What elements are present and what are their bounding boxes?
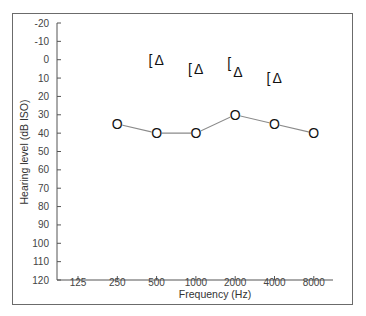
- y-tick-label: 80: [38, 201, 50, 212]
- x-tick-label: 2000: [224, 277, 247, 288]
- y-tick-labels: -20-100102030405060708090100110120: [32, 18, 49, 286]
- y-tick-label: 50: [38, 146, 50, 157]
- x-tick-label: 500: [148, 277, 165, 288]
- y-tick-label: -10: [35, 36, 50, 47]
- bone-conduction-marker: [Δ: [227, 55, 242, 80]
- series-line: [117, 115, 313, 133]
- y-tick-label: 100: [32, 238, 49, 249]
- x-tick-labels: 1252505001000200040008000: [70, 277, 326, 288]
- y-axis-title: Hearing level (dB ISO): [18, 99, 30, 204]
- y-tick-label: 30: [38, 109, 50, 120]
- y-tick-label: 90: [38, 219, 50, 230]
- triangle-symbol: Δ: [194, 61, 203, 77]
- y-tick-label: 10: [38, 73, 50, 84]
- bracket-symbol: [: [227, 55, 231, 71]
- triangle-symbol: Δ: [233, 64, 242, 80]
- triangle-symbol: Δ: [155, 52, 164, 68]
- bracket-symbol: [: [149, 52, 153, 68]
- y-tick-label: 110: [33, 256, 49, 267]
- x-axis-title: Frequency (Hz): [179, 288, 251, 300]
- triangle-symbol: Δ: [273, 70, 282, 86]
- audiogram-chart: -20-100102030405060708090100110120 12525…: [0, 0, 366, 316]
- air-conduction-marker: O: [190, 125, 201, 141]
- y-tick-label: 70: [38, 183, 50, 194]
- x-tick-label: 250: [109, 277, 126, 288]
- air-conduction-marker: O: [151, 125, 162, 141]
- x-tick-label: 1000: [185, 277, 208, 288]
- y-tick-label: 120: [32, 275, 49, 286]
- air-conduction-marker: O: [112, 116, 123, 132]
- bone-conduction-marker: [Δ: [267, 70, 282, 86]
- data-series: OOOOOO[Δ[Δ[Δ[Δ: [112, 52, 319, 141]
- x-tick-label: 4000: [263, 277, 286, 288]
- air-conduction-marker: O: [269, 116, 280, 132]
- y-tick-label: 60: [38, 164, 50, 175]
- bone-conduction-marker: [Δ: [188, 61, 203, 77]
- x-tick-label: 125: [70, 277, 87, 288]
- bone-conduction-marker: [Δ: [149, 52, 164, 68]
- y-tick-label: -20: [35, 18, 50, 29]
- y-tick-label: 20: [38, 91, 50, 102]
- y-tick-label: 40: [38, 128, 50, 139]
- bracket-symbol: [: [188, 61, 192, 77]
- bracket-symbol: [: [267, 70, 271, 86]
- y-tick-label: 0: [43, 54, 49, 65]
- x-tick-label: 8000: [303, 277, 326, 288]
- air-conduction-marker: O: [230, 107, 241, 123]
- air-conduction-marker: O: [308, 125, 319, 141]
